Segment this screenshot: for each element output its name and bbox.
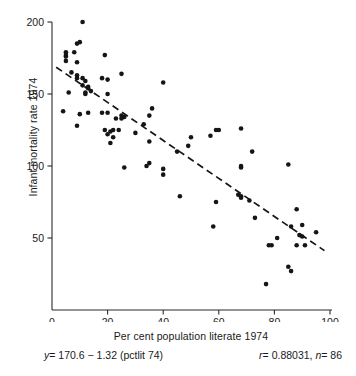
regression-line	[56, 67, 324, 250]
data-points	[61, 20, 319, 287]
correlation-stats: r= 0.88031, n= 86	[259, 349, 342, 361]
svg-text:50: 50	[32, 232, 44, 244]
r-value: = 0.88031,	[263, 349, 313, 361]
svg-text:40: 40	[157, 316, 169, 322]
regression-equation: y= 170.6 − 1.32 (pctlit 74)	[44, 349, 163, 361]
scatter-plot-figure: 02040608010050100150200 Infant mortality…	[0, 0, 356, 376]
caption-row: y= 170.6 − 1.32 (pctlit 74) r= 0.88031, …	[0, 349, 356, 369]
y-axis-title: Infant mortality rate 1974	[27, 47, 39, 227]
scatter-plot-svg: 02040608010050100150200	[0, 0, 356, 322]
svg-text:80: 80	[269, 316, 281, 322]
svg-text:100: 100	[321, 316, 339, 322]
svg-text:60: 60	[213, 316, 225, 322]
plot-area: 02040608010050100150200 Infant mortality…	[0, 0, 356, 322]
svg-text:200: 200	[26, 16, 44, 28]
svg-text:20: 20	[102, 316, 114, 322]
equation-body: = 170.6 − 1.32 (pctlit 74)	[49, 349, 163, 361]
x-axis-title: Per cent population literate 1974	[52, 330, 330, 342]
tick-labels: 02040608010050100150200	[26, 16, 338, 322]
n-value: = 86	[321, 349, 342, 361]
svg-text:0: 0	[49, 316, 55, 322]
